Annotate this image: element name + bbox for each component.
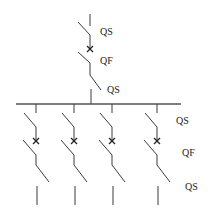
- incoming-feeder: QS QF QS: [78, 14, 120, 104]
- label-outgoing-qs-bottom: QS: [185, 181, 198, 192]
- outgoing-branch-3: [99, 104, 125, 205]
- label-outgoing-qf: QF: [182, 147, 195, 158]
- disconnector-blade: [90, 75, 101, 90]
- breaker-blade: [78, 52, 90, 63]
- outgoing-branch-1: [23, 104, 49, 205]
- wiring-diagram: QS QF QS QS QF QS: [0, 0, 208, 219]
- label-outgoing-qs: QS: [176, 115, 189, 126]
- outgoing-branch-4: [144, 104, 170, 205]
- outgoing-branch-2: [61, 104, 87, 205]
- label-qf: QF: [100, 55, 113, 66]
- label-qs-bottom: QS: [107, 84, 120, 95]
- disconnector-blade: [78, 22, 90, 35]
- label-qs-top: QS: [100, 26, 113, 37]
